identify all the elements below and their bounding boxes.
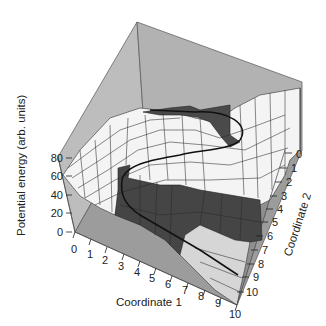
y-tick: 5 (272, 216, 278, 228)
y-tick: 10 (246, 286, 258, 298)
y-tick: 3 (281, 190, 287, 202)
z-tick-20: 20 (51, 207, 63, 219)
z-tick-0: 0 (57, 226, 63, 238)
z-tick-40: 40 (51, 189, 63, 201)
x-tick: 8 (198, 290, 204, 302)
x-tick: 7 (182, 284, 188, 296)
y-tick: 8 (258, 258, 264, 270)
x-tick: 5 (149, 272, 155, 284)
x-tick: 0 (71, 243, 77, 255)
y-tick: 2 (286, 176, 292, 188)
x-tick: 3 (118, 260, 124, 272)
x-tick: 6 (165, 278, 171, 290)
y-tick: 1 (291, 162, 297, 174)
y-tick: 4 (277, 203, 283, 215)
x-tick: 1 (87, 248, 93, 260)
y-tick: 9 (253, 271, 259, 283)
x-axis-title: Coordinate 1 (116, 296, 182, 308)
y-tick: 6 (267, 230, 273, 242)
z-tick-80: 80 (51, 152, 63, 164)
y-tick: 0 (296, 148, 302, 160)
x-tick: 2 (102, 254, 108, 266)
x-tick: 4 (134, 266, 140, 278)
surface-plot: 80 60 40 20 0 Potential energy (arb. uni… (0, 0, 326, 326)
x-tick: 10 (229, 308, 241, 320)
x-tick: 9 (215, 297, 221, 309)
z-tick-60: 60 (51, 170, 63, 182)
z-axis-title: Potential energy (arb. units) (15, 95, 27, 236)
y-tick: 7 (262, 244, 268, 256)
